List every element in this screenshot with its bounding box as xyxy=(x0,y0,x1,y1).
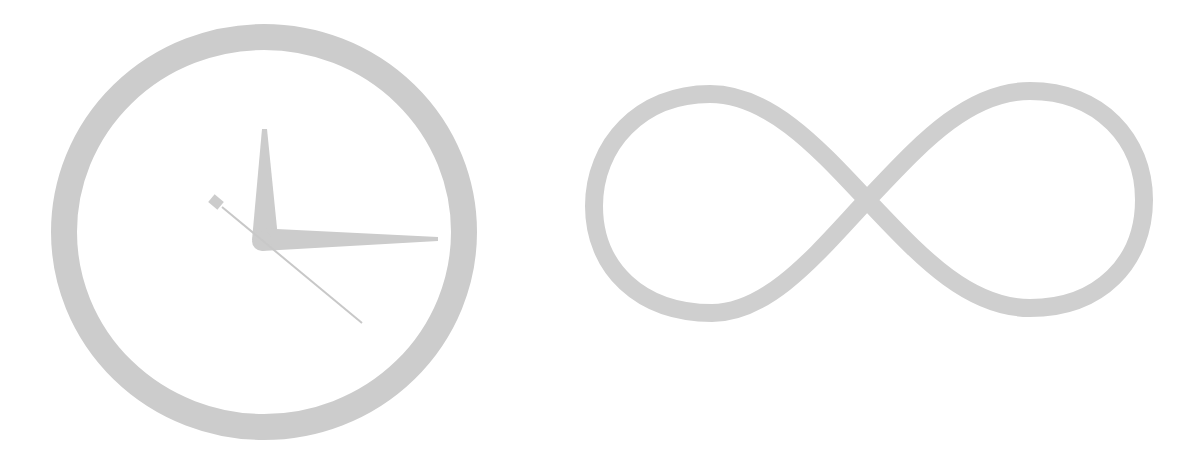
infinity-icon xyxy=(594,91,1144,313)
clock-minute-hand xyxy=(256,228,438,251)
clock-icon xyxy=(64,37,464,427)
clock-hour-hand xyxy=(252,129,278,240)
clock-second-counterweight xyxy=(208,194,224,209)
clock-second-hand xyxy=(222,207,362,323)
infinity-stroke xyxy=(594,91,1144,313)
canvas: Clock Infinity xyxy=(0,0,1202,458)
